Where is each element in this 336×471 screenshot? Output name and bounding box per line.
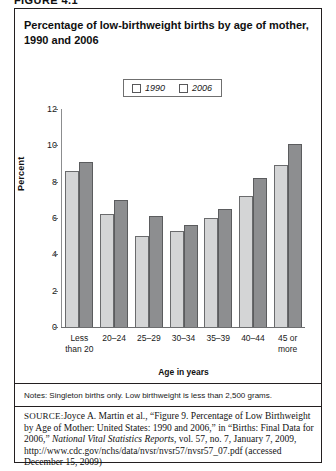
y-tick-mark — [54, 291, 58, 292]
legend-label-2006: 2006 — [192, 83, 212, 93]
bar-1990[interactable] — [65, 171, 79, 327]
x-tick-label: 40–44 — [236, 333, 271, 354]
chart-notes: Notes: Singleton births only. Low birthw… — [24, 390, 316, 401]
bar-2006[interactable] — [184, 225, 198, 327]
bar-group — [131, 109, 166, 327]
y-axis-title: Percent — [13, 109, 29, 239]
notes-divider — [15, 383, 321, 384]
x-tick-label: 35–39 — [201, 333, 236, 354]
x-axis-title: Age in years — [62, 367, 305, 377]
y-axis-ticks: 024681012 — [35, 109, 57, 327]
legend-swatch-2006 — [179, 84, 188, 93]
bar-1990[interactable] — [100, 214, 114, 327]
bar-group — [236, 109, 271, 327]
y-tick-mark — [54, 109, 58, 110]
x-tick-label: 30–34 — [166, 333, 201, 354]
bar-2006[interactable] — [149, 216, 163, 327]
chart-legend: 1990 2006 — [123, 79, 222, 97]
figure-title: Percentage of low-birthweight births by … — [24, 18, 314, 48]
bar-1990[interactable] — [204, 218, 218, 327]
bar-groups — [62, 109, 305, 327]
x-axis-line — [61, 327, 305, 328]
figure-number-label: FIGURE 4.1 — [14, 0, 78, 6]
x-tick-label: Lessthan 20 — [62, 333, 97, 354]
x-axis-tick-labels: Lessthan 2020–2425–2930–3435–3940–4445 o… — [62, 333, 305, 354]
legend-label-1990: 1990 — [145, 83, 165, 93]
y-tick-mark — [54, 218, 58, 219]
bar-group — [97, 109, 132, 327]
bar-1990[interactable] — [170, 231, 184, 327]
x-tick-label: 25–29 — [131, 333, 166, 354]
bar-2006[interactable] — [253, 178, 267, 327]
bar-2006[interactable] — [114, 200, 128, 327]
chart-plot-area: 024681012 Lessthan 2020–2425–2930–3435–3… — [35, 109, 305, 349]
y-tick-mark — [54, 145, 58, 146]
source-divider — [15, 406, 321, 407]
x-tick-label: 45 ormore — [270, 333, 305, 354]
bar-1990[interactable] — [274, 165, 288, 327]
source-label: SOURCE: — [24, 411, 63, 421]
legend-item-2006: 2006 — [179, 83, 212, 93]
source-italic-1: National Vital Statistics Reports — [52, 434, 174, 444]
chart-source: SOURCE:Joyce A. Martin et al., “Figure 9… — [24, 411, 316, 469]
bar-group — [62, 109, 97, 327]
bar-group — [201, 109, 236, 327]
bar-group — [270, 109, 305, 327]
bar-1990[interactable] — [239, 196, 253, 327]
legend-swatch-1990 — [132, 84, 141, 93]
bar-2006[interactable] — [79, 162, 93, 327]
figure-container: Percentage of low-birthweight births by … — [14, 8, 322, 463]
x-tick-label: 20–24 — [97, 333, 132, 354]
bar-2006[interactable] — [218, 209, 232, 327]
bar-2006[interactable] — [288, 144, 302, 327]
y-tick-mark — [54, 182, 58, 183]
bar-1990[interactable] — [135, 236, 149, 327]
y-tick-mark — [54, 254, 58, 255]
legend-item-1990: 1990 — [132, 83, 165, 93]
bar-group — [166, 109, 201, 327]
y-tick-mark — [54, 327, 58, 328]
